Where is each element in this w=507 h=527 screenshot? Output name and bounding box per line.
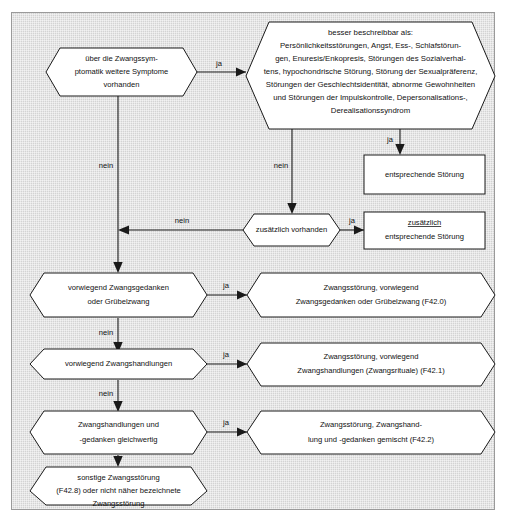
edge-label-q2-ja: ja (348, 216, 356, 225)
node-desc-line-2: Persönlichkeitsstörungen, Angst, Ess-, S… (280, 41, 462, 50)
node-q1-weitere-symptome[interactable]: über die Zwangssym- ptomatik weitere Sym… (46, 48, 197, 96)
edge-label-q5-ja: ja (222, 418, 230, 427)
node-out3-f420[interactable]: Zwangsstörung, vorwiegend Zwangsgedanken… (247, 273, 495, 317)
node-desc-line-3: gen, Enuresis/Enkopresis, Störungen des … (275, 54, 466, 63)
node-q1-line-1: über die Zwangssym- (85, 54, 158, 63)
node-q3-vorwiegend-zwangsgedanken[interactable]: vorwiegend Zwangsgedanken oder Grübelzwa… (30, 273, 207, 317)
edge-label-q2-nein: nein (175, 216, 189, 225)
edge-q1-trunk (113, 96, 122, 273)
flowchart-svg: ja nein ja nein ja nein ja nein ja nein … (0, 0, 507, 527)
node-q5-gleichwertig[interactable]: Zwangshandlungen und -gedanken gleichwer… (30, 411, 207, 454)
node-q3-line-2: oder Grübelzwang (87, 297, 149, 306)
node-out6-line-3: Zwangsstörung (93, 499, 145, 508)
edge-q3-to-q4 (113, 318, 122, 353)
edge-label-q3-nein: nein (99, 328, 113, 337)
edge-q3-to-out3 (207, 291, 247, 300)
node-q3-line-1: vorwiegend Zwangsgedanken (68, 283, 169, 292)
node-out4-line-2: Zwangshandlungen (Zwangsrituale) (F42.1) (297, 366, 445, 375)
node-q5-line-1: Zwangshandlungen und (78, 420, 159, 429)
node-out5-line-1: Zwangsstörung, Zwangshand- (320, 420, 423, 429)
edge-q1-to-desc (196, 68, 246, 77)
node-out1-entsprechende-stoerung[interactable]: entsprechende Störung (364, 155, 485, 194)
node-q2-line-1: zusätzlich vorhanden (256, 225, 327, 234)
edge-label-q4-ja: ja (222, 350, 230, 359)
node-q4-line-1: vorwiegend Zwangshandlungen (65, 359, 172, 368)
edge-q4-to-q5 (113, 380, 122, 412)
node-out3-line-1: Zwangsstörung, vorwiegend (324, 283, 419, 292)
edge-desc-to-q2 (287, 128, 296, 214)
node-out2-zusaetzlich-entsprechende-stoerung[interactable]: zusätzlich entsprechende Störung (364, 212, 485, 249)
node-out3-line-2: Zwangsgedanken oder Grübelzwang (F42.0) (296, 297, 447, 306)
edge-q5-to-out6 (113, 455, 122, 467)
figure-root: ja nein ja nein ja nein ja nein ja nein … (0, 0, 507, 527)
node-out2-line-2: entsprechende Störung (385, 232, 464, 241)
edge-q2-to-trunk (118, 226, 244, 235)
edge-q4-to-out4 (207, 360, 247, 369)
node-desc-line-4: tens, hypochondrische Störung, Störung d… (264, 67, 478, 76)
edge-label-q3-ja: ja (222, 281, 230, 290)
node-desc-line-6: und Störungen der Impulskontrolle, Deper… (273, 93, 468, 102)
node-out6-line-1: sonstige Zwangsstörung (77, 473, 159, 482)
edge-label-desc-ja: ja (386, 135, 394, 144)
node-desc-line-7: Derealisationssyndrom (331, 106, 410, 115)
edge-label-q1-nein: nein (99, 161, 113, 170)
node-out4-f421[interactable]: Zwangsstörung, vorwiegend Zwangshandlung… (247, 343, 495, 386)
node-out5-line-2: lung und -gedanken gemischt (F42.2) (308, 435, 435, 444)
node-q5-line-2: -gedanken gleichwertig (79, 435, 157, 444)
node-q2-zusaetzlich-vorhanden[interactable]: zusätzlich vorhanden (243, 214, 340, 246)
node-out2-line-1: zusätzlich (408, 218, 441, 227)
node-out6-line-2: (F42.8) oder nicht näher bezeichnete (56, 486, 181, 495)
node-desc-besser-beschreibbar[interactable]: besser beschreibbar als: Persönlichkeits… (246, 22, 495, 129)
node-q1-line-2: ptomatik weitere Symptome (75, 67, 169, 76)
node-desc-line-1: besser beschreibbar als: (328, 28, 413, 37)
node-out1-line-1: entsprechende Störung (385, 170, 464, 179)
edge-label-desc-nein: nein (274, 161, 288, 170)
edge-q5-to-out5 (207, 428, 247, 437)
edge-desc-to-out1 (395, 128, 404, 155)
node-q4-vorwiegend-zwangshandlungen[interactable]: vorwiegend Zwangshandlungen (30, 349, 207, 379)
node-out4-line-1: Zwangsstörung, vorwiegend (324, 352, 419, 361)
edge-label-q1-ja: ja (215, 59, 223, 68)
node-out5-f422[interactable]: Zwangsstörung, Zwangshand- lung und -ged… (247, 411, 495, 454)
node-q1-line-3: vorhanden (104, 80, 140, 89)
edge-label-q4-nein: nein (99, 389, 113, 398)
node-desc-line-5: Störungen der Geschlechtsidentität, abno… (266, 80, 475, 89)
node-out6-f428[interactable]: sonstige Zwangsstörung (F42.8) oder nich… (30, 467, 207, 508)
edge-q2-to-out2 (340, 226, 364, 235)
